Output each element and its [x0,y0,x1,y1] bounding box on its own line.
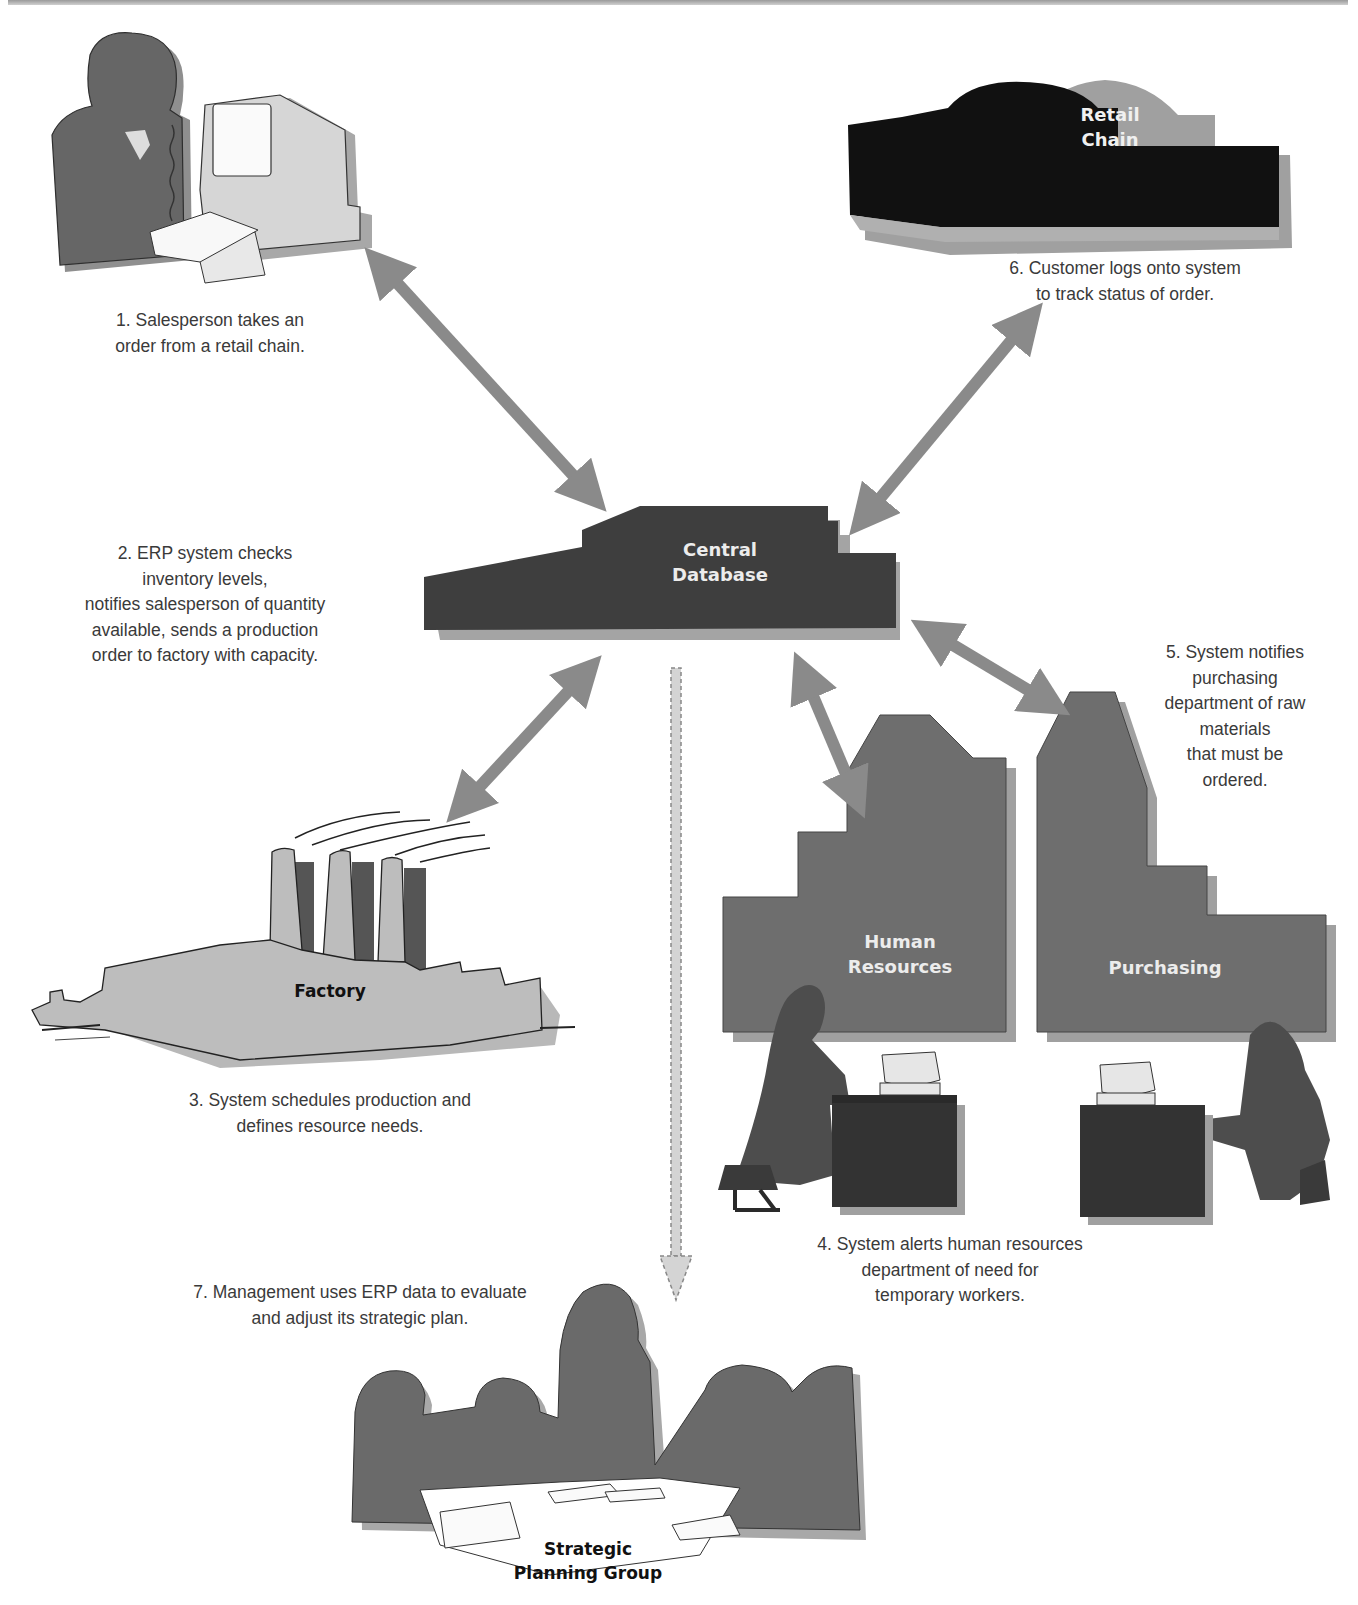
step-1-caption: 1. Salesperson takes an order from a ret… [80,308,340,359]
arrow-hr-database [802,670,857,800]
factory-building [32,812,575,1068]
step-5-caption: 5. System notifies purchasing department… [1140,640,1330,793]
purchasing-worker-illustration [1080,1022,1330,1225]
dashed-arrow-database-to-strategic [660,668,692,1300]
human-resources-building [723,715,1016,1042]
step-7-caption: 7. Management uses ERP data to evaluate … [150,1280,570,1331]
retail-chain-label: Retail Chain [1020,102,1200,152]
central-database-label: Central Database [630,537,810,587]
arrow-purchasing-database [928,630,1053,705]
human-resources-label: Human Resources [810,929,990,979]
step-4-caption: 4. System alerts human resources departm… [780,1232,1120,1309]
strategic-planning-label: Strategic Planning Group [488,1537,688,1585]
factory-label: Factory [240,979,420,1003]
salesperson-illustration [52,33,372,283]
step-3-caption: 3. System schedules production and defin… [140,1088,520,1139]
arrow-retail-database [862,318,1030,520]
step-6-caption: 6. Customer logs onto system to track st… [980,256,1270,307]
step-2-caption: 2. ERP system checks inventory levels, n… [45,541,365,669]
purchasing-label: Purchasing [1070,955,1260,980]
arrow-salesperson-database [378,262,593,497]
arrow-factory-database [460,670,588,808]
